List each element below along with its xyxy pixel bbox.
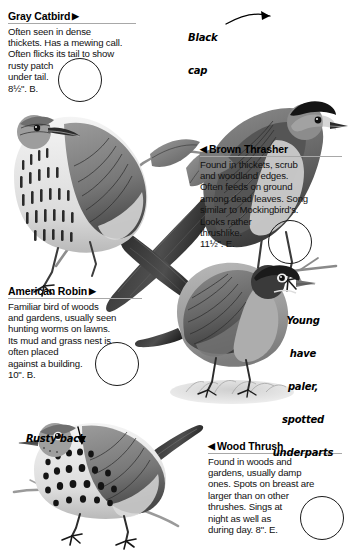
heading-rule <box>8 23 136 24</box>
range-circle-american-robin <box>95 342 139 386</box>
heading-rule <box>8 298 142 299</box>
body-line: Looks rather <box>200 216 342 227</box>
heading-label: American Robin <box>8 285 87 297</box>
body-line: among dead leaves. Song <box>200 193 342 204</box>
body-line: hunting worms on lawns. <box>8 323 142 334</box>
annotation-line: Young <box>260 315 346 326</box>
body-line: ones. Spots on breast are <box>208 478 342 489</box>
chevron-left-icon: ◀ <box>208 442 215 451</box>
chevron-right-icon: ▶ <box>72 12 79 21</box>
annotation-line: paler, <box>260 381 346 392</box>
range-circle-gray-catbird <box>58 58 102 102</box>
body-line: thickets. Has a mewing call. <box>8 37 136 48</box>
annotation-black-cap: Black cap <box>188 10 217 98</box>
annotation-line: Black <box>188 32 217 43</box>
heading-rule <box>200 156 342 157</box>
heading-label: Brown Thrasher <box>209 143 288 155</box>
annotation-line: spotted <box>260 414 346 425</box>
heading-gray-catbird: Gray Catbird ▶ <box>8 10 136 22</box>
range-circle-brown-thrasher <box>268 220 312 264</box>
body-line: and gardens, usually seen <box>8 312 142 323</box>
chevron-right-icon: ▶ <box>89 287 96 296</box>
annotation-young-underparts: Young have paler, spotted underparts <box>260 293 346 480</box>
heading-brown-thrasher: ◀ Brown Thrasher <box>200 143 342 155</box>
body-line: Familiar bird of woods <box>8 301 142 312</box>
annotation-line: underparts <box>260 447 346 458</box>
body-line: Found in thickets, scrub <box>200 159 342 170</box>
annotation-line: have <box>260 348 346 359</box>
body-line: similar to Mockingbird's. <box>200 204 342 215</box>
body-line: Often feeds on ground <box>200 181 342 192</box>
field-guide-page: Gray Catbird ▶ Often seen in dense thick… <box>0 0 348 550</box>
annotation-rusty-back: Rusty back <box>26 411 86 466</box>
annotation-line: cap <box>188 65 217 76</box>
body-line: Often seen in dense <box>8 26 136 37</box>
body-line: and woodland edges. <box>200 170 342 181</box>
body-line: Often flicks its tail to show <box>8 48 136 59</box>
annotation-line: Rusty back <box>26 433 86 444</box>
heading-american-robin: American Robin ▶ <box>8 285 142 297</box>
heading-label: Gray Catbird <box>8 10 70 22</box>
chevron-left-icon: ◀ <box>200 145 207 154</box>
range-circle-wood-thrush <box>300 496 344 540</box>
